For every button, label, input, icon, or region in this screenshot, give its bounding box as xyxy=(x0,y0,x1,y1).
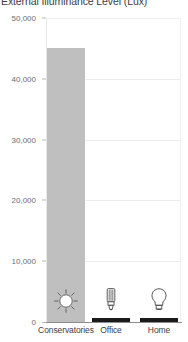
bars-layer xyxy=(46,18,181,322)
bar-slot-home xyxy=(140,18,178,322)
x-tick-label-conservatories: Conservatories xyxy=(38,325,94,335)
illuminance-bar-chart: External Illuminance Level (Lux) 0 10,00… xyxy=(0,0,188,342)
bar-slot-conservatories xyxy=(47,18,85,322)
x-axis-labels: Conservatories Office Home xyxy=(0,325,188,341)
y-tick-label-30000: 30,000 xyxy=(12,135,36,144)
y-tick-label-50000: 50,000 xyxy=(12,14,36,23)
x-tick-label-office: Office xyxy=(100,325,121,335)
y-tick-label-40000: 40,000 xyxy=(12,74,36,83)
y-tick-label-10000: 10,000 xyxy=(12,257,36,266)
bar-conservatories[interactable] xyxy=(47,48,85,322)
cfl-lamp-icon xyxy=(103,287,119,317)
bar-slot-office xyxy=(92,18,130,322)
light-bulb-icon xyxy=(150,287,168,317)
y-axis: 0 10,000 20,000 30,000 40,000 50,000 xyxy=(0,0,42,342)
y-tick-label-20000: 20,000 xyxy=(12,196,36,205)
x-tick-label-home: Home xyxy=(148,325,170,335)
x-axis-line xyxy=(46,322,182,323)
